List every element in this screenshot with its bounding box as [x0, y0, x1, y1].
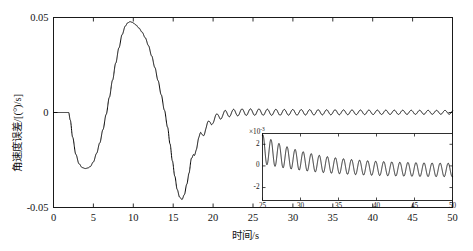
x-tick-label: 0	[51, 213, 56, 224]
inset-y-tick-label: -2	[254, 184, 260, 191]
inset-x-tick-label: 35	[335, 203, 342, 210]
y-axis-title: 角速度误差/[(°)/s]	[13, 94, 24, 172]
x-tick-label: 20	[208, 213, 219, 224]
inset-exponent-mantissa: ×10	[249, 128, 260, 136]
inset-x-tick-label: 50	[449, 203, 456, 210]
inset-exponent-power: -3	[260, 126, 265, 132]
inset-x-tick-label: 40	[373, 203, 380, 210]
x-tick-label: 25	[248, 213, 259, 224]
x-tick-label: 45	[407, 213, 418, 224]
x-axis-title: 时间/s	[232, 231, 259, 242]
y-tick-label: -0.05	[27, 203, 49, 214]
x-tick-label: 30	[288, 213, 299, 224]
y-tick-label: 0	[43, 108, 48, 119]
inset-y-exponent-label: ×10-3	[249, 127, 265, 137]
inset-x-tick-label: 30	[297, 203, 304, 210]
chart-canvas	[0, 0, 473, 251]
x-tick-label: 10	[128, 213, 139, 224]
x-tick-label: 50	[447, 213, 458, 224]
angular-velocity-error-figure: 角速度误差/[(°)/s] 时间/s ×10-3 051015202530354…	[0, 0, 473, 251]
y-tick-label: 0.05	[30, 13, 48, 24]
x-tick-label: 5	[91, 213, 96, 224]
x-tick-label: 15	[168, 213, 179, 224]
inset-x-tick-label: 25	[259, 203, 266, 210]
x-tick-label: 35	[328, 213, 339, 224]
inset-y-tick-label: 0	[256, 162, 260, 169]
inset-y-tick-label: 2	[256, 141, 260, 148]
x-tick-label: 40	[367, 213, 378, 224]
inset-x-tick-label: 45	[411, 203, 418, 210]
